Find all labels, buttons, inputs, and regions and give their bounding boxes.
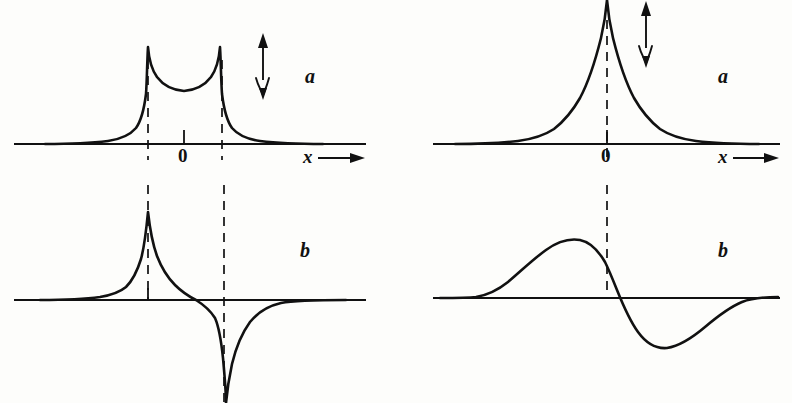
right-top-x-axis-arrow: [733, 153, 779, 163]
left-bottom-panel: [14, 185, 366, 403]
left-top-x-axis-label: x: [303, 147, 313, 166]
right-bottom-panel-letter: b: [718, 240, 728, 260]
left-top-panel: [14, 33, 366, 163]
right-top-absorption-curve: [455, 0, 759, 144]
left-top-intensity-arrow-down: [256, 78, 269, 100]
right-top-intensity-arrow-up: [641, 1, 651, 48]
left-top-intensity-arrow-up: [258, 33, 268, 80]
figure-canvas: [0, 0, 792, 403]
left-top-absorption-curve: [45, 47, 323, 144]
right-top-intensity-arrow-down: [639, 46, 652, 68]
right-top-panel-letter: a: [718, 66, 728, 86]
figure-root: a 0 x b a 0 x b: [0, 0, 792, 403]
left-top-panel-letter: a: [305, 66, 315, 86]
left-top-x-axis-arrow: [318, 153, 365, 163]
right-top-zero-label: 0: [601, 146, 611, 165]
left-bottom-panel-letter: b: [300, 240, 310, 260]
left-top-zero-label: 0: [178, 146, 188, 165]
right-top-x-axis-label: x: [718, 147, 728, 166]
right-bottom-panel: [433, 185, 780, 348]
